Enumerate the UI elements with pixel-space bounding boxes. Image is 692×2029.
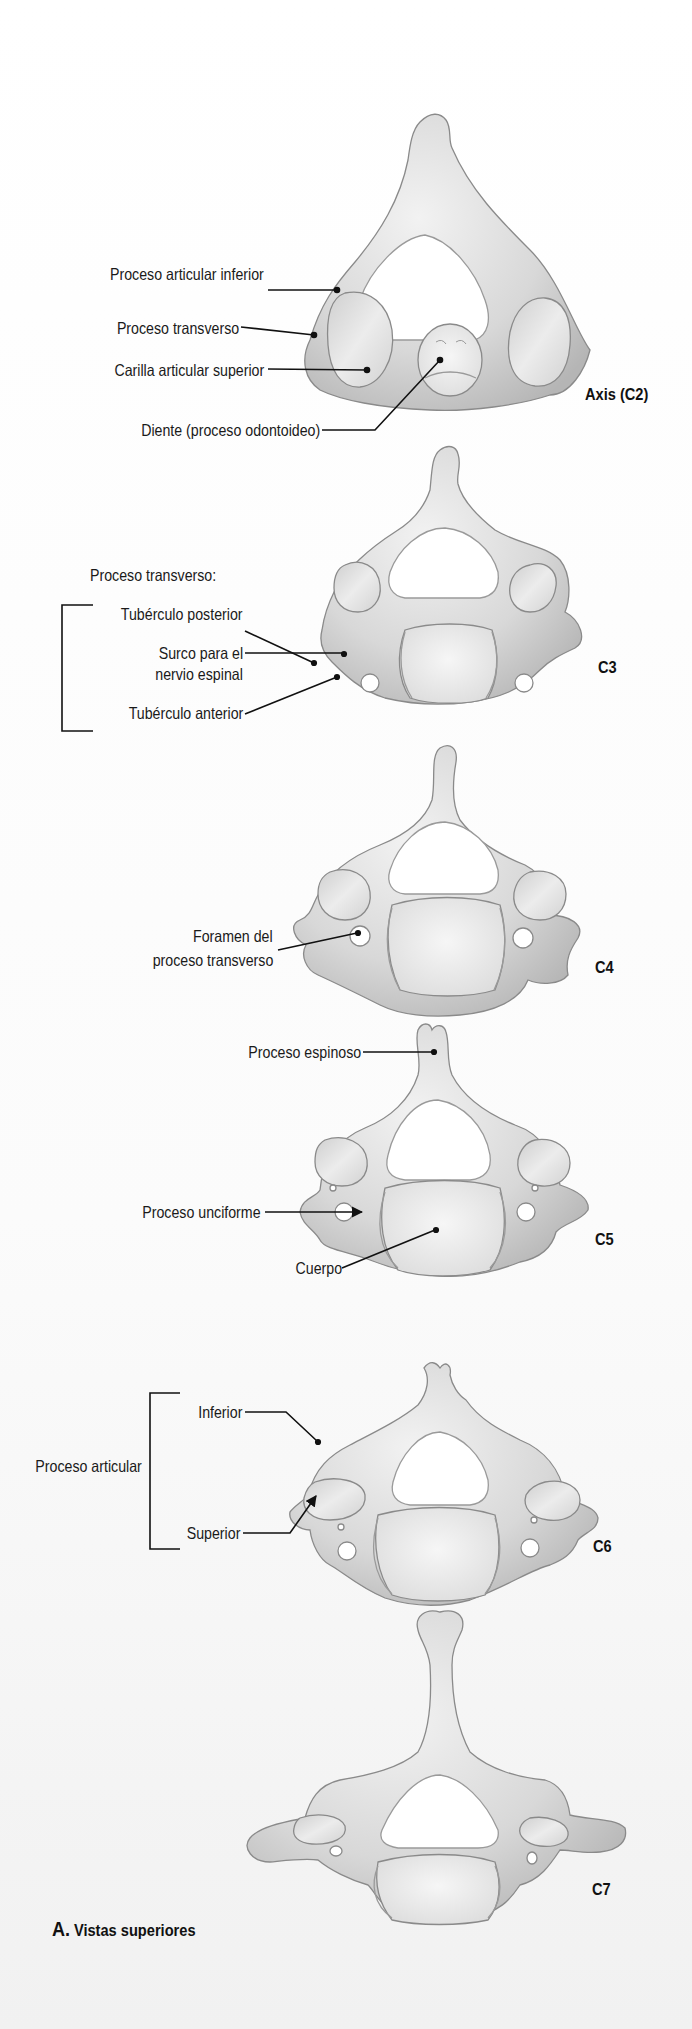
label-proceso-unciforme: Proceso unciforme — [143, 1202, 261, 1222]
label-surco-line1: Surco para el — [159, 643, 243, 663]
vertebra-name-c4: C4 — [595, 958, 614, 978]
vertebra-c3 — [321, 447, 582, 705]
vertebra-c6 — [290, 1363, 598, 1605]
label-tuberculo-anterior: Tubérculo anterior — [128, 703, 243, 723]
vertebra-name-c6: C6 — [593, 1537, 612, 1557]
label-cuerpo: Cuerpo — [295, 1258, 342, 1278]
figure-caption: A. Vistas superiores — [52, 1917, 196, 1941]
label-surco-line2: nervio espinal — [155, 664, 243, 684]
vertebra-name-c5: C5 — [595, 1230, 614, 1250]
caption-letter: A. — [52, 1917, 70, 1940]
label-proceso-articular-inferior: Proceso articular inferior — [110, 264, 264, 284]
articular-bracket — [150, 1393, 180, 1549]
label-carilla-articular-superior: Carilla articular superior — [114, 360, 264, 380]
vertebra-name-c2: Axis (C2) — [585, 385, 648, 405]
label-proceso-espinoso: Proceso espinoso — [248, 1042, 361, 1062]
label-foramen-line2: proceso transverso — [152, 950, 273, 970]
label-tuberculo-posterior: Tubérculo posterior — [121, 604, 243, 624]
label-foramen-line1: Foramen del — [193, 926, 273, 946]
vertebra-name-c7: C7 — [592, 1880, 611, 1900]
transverse-bracket — [62, 605, 93, 731]
caption-text: Vistas superiores — [74, 1921, 196, 1940]
label-proceso-transverso-heading: Proceso transverso: — [90, 565, 216, 585]
vertebrae-illustration — [0, 0, 692, 2029]
vertebra-name-c3: C3 — [598, 658, 617, 678]
label-superior: Superior — [186, 1523, 240, 1543]
vertebra-c7 — [247, 1611, 625, 1925]
label-inferior: Inferior — [198, 1402, 242, 1422]
vertebrae-figure: Proceso articular inferior Proceso trans… — [0, 0, 692, 2029]
label-proceso-transverso: Proceso transverso — [117, 318, 239, 338]
vertebra-c2 — [305, 114, 590, 410]
vertebra-c4 — [294, 746, 580, 1016]
label-proceso-articular-heading: Proceso articular — [36, 1456, 142, 1476]
label-diente: Diente (proceso odontoideo) — [141, 420, 320, 440]
